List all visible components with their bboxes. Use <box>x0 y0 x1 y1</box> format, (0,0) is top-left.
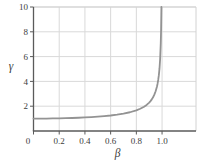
x-axis-label: β <box>114 147 121 160</box>
x-tick-label: 0.6 <box>105 136 117 146</box>
y-tick-label: 10 <box>19 2 29 12</box>
x-tick-label: 1.0 <box>156 136 168 146</box>
y-tick-label: 6 <box>24 52 29 62</box>
y-tick-label: 8 <box>24 27 29 37</box>
y-axis-label: γ <box>9 60 14 73</box>
curve-layer <box>34 7 162 119</box>
x-tick-label: 0.4 <box>79 136 91 146</box>
x-tick-label: 0 <box>26 136 31 146</box>
y-tick-label: 2 <box>24 101 29 111</box>
label-layer: 00.20.40.60.81.0246810 <box>19 2 168 145</box>
plot-canvas: 00.20.40.60.81.0246810 γ β <box>0 0 202 168</box>
y-tick-label: 4 <box>24 77 29 87</box>
grid-layer <box>34 7 197 131</box>
x-tick-label: 0.2 <box>54 136 65 146</box>
lorentz-factor-curve <box>34 7 162 119</box>
lorentz-factor-chart: 00.20.40.60.81.0246810 γ β <box>0 0 202 168</box>
frame-layer <box>34 7 197 131</box>
x-tick-label: 0.8 <box>131 136 143 146</box>
